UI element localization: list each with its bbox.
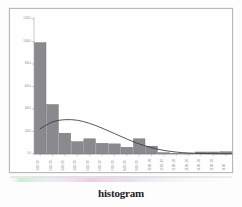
figure-caption: histogram	[0, 186, 242, 200]
plot-canvas	[10, 9, 234, 174]
histogram-figure: 0.0200.0400.0600.0800.01000.01200.0 1.00…	[0, 0, 242, 207]
color-calibration-strip	[10, 178, 232, 182]
histogram-bar	[72, 142, 84, 154]
histogram-bar	[121, 147, 133, 154]
histogram-bar	[109, 144, 121, 154]
figure-frame: 0.0200.0400.0600.0800.01000.01200.0 1.00…	[9, 8, 233, 173]
histogram-bar	[133, 139, 145, 154]
histogram-bar	[47, 105, 59, 155]
bars-group	[34, 43, 231, 154]
histogram-bar	[96, 143, 108, 154]
histogram-bar	[158, 153, 170, 154]
histogram-bar	[59, 133, 71, 154]
histogram-svg	[10, 9, 234, 174]
histogram-bar	[34, 43, 46, 154]
histogram-bar	[171, 153, 183, 154]
histogram-bar	[84, 139, 96, 154]
